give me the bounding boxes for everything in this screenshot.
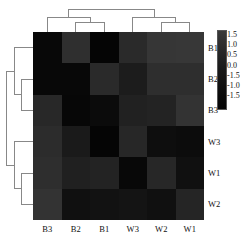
heatmap-cell [62, 63, 91, 94]
heatmap-cell [33, 63, 62, 94]
heatmap-cell [147, 126, 176, 157]
row-label: W1 [206, 157, 228, 188]
heatmap-cell [176, 63, 205, 94]
dendro-branch-w2-w1 [161, 22, 190, 32]
heatmap-figure: B3B2B1W3W2W1 B1B2B3W3W1W2 1.51.00.50.0-1… [0, 0, 249, 248]
column-label: B3 [33, 222, 62, 238]
column-label: B1 [90, 222, 119, 238]
heatmap-cell [90, 95, 119, 126]
dendro-row-branch-w1-w2 [21, 173, 33, 204]
column-axis-labels: B3B2B1W3W2W1 [33, 222, 204, 238]
heatmap-cell [90, 189, 119, 220]
colorbar-tick: -1.5 [227, 92, 240, 100]
heatmap-cell [62, 189, 91, 220]
heatmap-cell [176, 157, 205, 188]
heatmap-cell [33, 32, 62, 63]
colorbar-tick: 0.5 [227, 51, 237, 59]
heatmap-cell [33, 189, 62, 220]
dendro-row-branch-b1-cluster [14, 48, 33, 95]
heatmap-cell [147, 189, 176, 220]
heatmap-cell [176, 126, 205, 157]
heatmap-cell [119, 32, 148, 63]
colorbar-tick: 1.0 [227, 41, 237, 49]
heatmap-grid [33, 32, 204, 220]
heatmap-cell [119, 157, 148, 188]
heatmap-cell [176, 189, 205, 220]
heatmap-cell [62, 126, 91, 157]
heatmap-cell [33, 126, 62, 157]
colorbar-tick: 0.0 [227, 62, 237, 70]
colorbar: 1.51.00.50.0-1.5-1.0-1.5 [217, 30, 249, 110]
heatmap-cell [119, 63, 148, 94]
heatmap-cell [119, 189, 148, 220]
heatmap-cell [62, 95, 91, 126]
heatmap-cell [90, 63, 119, 94]
colorbar-tick: -1.5 [227, 72, 240, 80]
column-label: B2 [62, 222, 91, 238]
heatmap-cell [33, 157, 62, 188]
heatmap-cell [90, 157, 119, 188]
heatmap-cell [90, 32, 119, 63]
colorbar-tick: -1.0 [227, 82, 240, 90]
heatmap-cell [33, 95, 62, 126]
dendro-branch-b3-cluster [47, 17, 90, 32]
colorbar-tick-labels: 1.51.00.50.0-1.5-1.0-1.5 [227, 30, 249, 108]
heatmap-cell [147, 63, 176, 94]
heatmap-cell [147, 32, 176, 63]
dendro-branch-root [69, 9, 155, 17]
row-label: W3 [206, 126, 228, 157]
heatmap-cell [119, 95, 148, 126]
dendro-row-branch-w3-cluster [14, 142, 33, 189]
column-label: W2 [147, 222, 176, 238]
column-label: W3 [119, 222, 148, 238]
colorbar-gradient [217, 30, 227, 110]
heatmap-cell [176, 32, 205, 63]
left-dendrogram [3, 32, 33, 220]
heatmap-cell [119, 126, 148, 157]
dendro-row-branch-root [6, 71, 14, 165]
column-label: W1 [176, 222, 205, 238]
dendro-branch-b2-b1 [76, 22, 105, 32]
dendro-branch-w3-cluster [133, 17, 176, 32]
dendro-row-branch-b2-b3 [21, 79, 33, 110]
heatmap-cell [147, 95, 176, 126]
heatmap-cell [147, 157, 176, 188]
heatmap-cell [176, 95, 205, 126]
heatmap-cell [62, 32, 91, 63]
top-dendrogram [33, 4, 204, 32]
row-label: W2 [206, 189, 228, 220]
heatmap-cell [62, 157, 91, 188]
colorbar-tick: 1.5 [227, 31, 237, 39]
heatmap-cell [90, 126, 119, 157]
